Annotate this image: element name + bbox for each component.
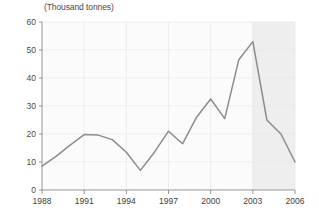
y-tick-label: 0: [31, 185, 36, 195]
x-tick-label: 2003: [243, 196, 262, 206]
x-tick-label: 1994: [117, 196, 136, 206]
x-axis-tick-labels: 1988199119941997200020032006: [33, 196, 305, 206]
y-tick-label: 50: [27, 45, 37, 55]
y-tick-label: 60: [27, 17, 37, 27]
y-axis-tick-labels: 0102030405060: [27, 17, 37, 195]
line-chart-plot: 0102030405060 19881991199419972000200320…: [0, 0, 319, 221]
x-tick-label: 1988: [33, 196, 52, 206]
y-tick-label: 20: [27, 129, 37, 139]
x-tick-label: 1991: [75, 196, 94, 206]
x-tick-label: 2006: [286, 196, 305, 206]
chart-container: (Thousand tonnes) 0102030405060 19881991…: [0, 0, 319, 221]
y-tick-label: 40: [27, 73, 37, 83]
y-tick-label: 30: [27, 101, 37, 111]
x-tick-label: 1997: [159, 196, 178, 206]
x-axis-tick-marks: [42, 190, 295, 194]
x-tick-label: 2000: [201, 196, 220, 206]
y-tick-label: 10: [27, 157, 37, 167]
